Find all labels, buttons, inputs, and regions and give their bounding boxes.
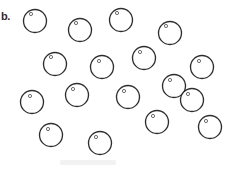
circle-highlight-dot-icon: [74, 21, 77, 24]
circle-highlight-dot-icon: [115, 11, 118, 14]
circle-marker: [110, 9, 133, 32]
circle-highlight-dot-icon: [71, 87, 74, 90]
circle-highlight-dot-icon: [151, 114, 154, 117]
circle-outline: [44, 53, 67, 76]
circle-outline: [110, 9, 133, 32]
circle-marker: [91, 56, 114, 79]
circle-marker: [89, 132, 112, 155]
circle-marker: [191, 56, 214, 79]
circle-outline: [181, 89, 204, 112]
circle-outline: [66, 84, 89, 107]
circle-marker: [24, 10, 47, 33]
circle-marker: [133, 47, 156, 70]
circles-layer: [0, 0, 231, 169]
circle-highlight-dot-icon: [97, 59, 100, 62]
circle-highlight-dot-icon: [49, 55, 52, 58]
circle-highlight-dot-icon: [164, 24, 167, 27]
circle-highlight-dot-icon: [204, 119, 207, 122]
circle-marker: [199, 116, 222, 139]
circle-outline: [199, 116, 222, 139]
circle-outline: [89, 132, 112, 155]
circle-marker: [181, 89, 204, 112]
circle-highlight-dot-icon: [122, 89, 125, 92]
circle-highlight-dot-icon: [46, 127, 49, 130]
circle-outline: [69, 19, 92, 42]
circle-marker: [159, 22, 182, 45]
circle-outline: [133, 47, 156, 70]
circle-marker: [146, 111, 169, 134]
circle-marker: [44, 53, 67, 76]
circle-highlight-dot-icon: [168, 78, 171, 81]
circle-highlight-dot-icon: [94, 135, 97, 138]
circle-highlight-dot-icon: [29, 12, 32, 15]
circle-outline: [24, 10, 47, 33]
figure-panel: b.: [0, 0, 231, 169]
circle-outline: [21, 91, 44, 114]
circle-highlight-dot-icon: [138, 50, 141, 53]
circle-marker: [117, 86, 140, 109]
circle-highlight-dot-icon: [197, 59, 200, 62]
circle-outline: [146, 111, 169, 134]
circle-highlight-dot-icon: [186, 92, 189, 95]
circle-marker: [66, 84, 89, 107]
page-edge-smudge: [60, 160, 116, 165]
circle-outline: [191, 56, 214, 79]
circle-outline: [40, 124, 63, 147]
circle-marker: [40, 124, 63, 147]
circle-outline: [91, 56, 114, 79]
circle-highlight-dot-icon: [28, 94, 31, 97]
circle-marker: [21, 91, 44, 114]
circle-outline: [159, 22, 182, 45]
circle-outline: [117, 86, 140, 109]
circle-marker: [69, 19, 92, 42]
